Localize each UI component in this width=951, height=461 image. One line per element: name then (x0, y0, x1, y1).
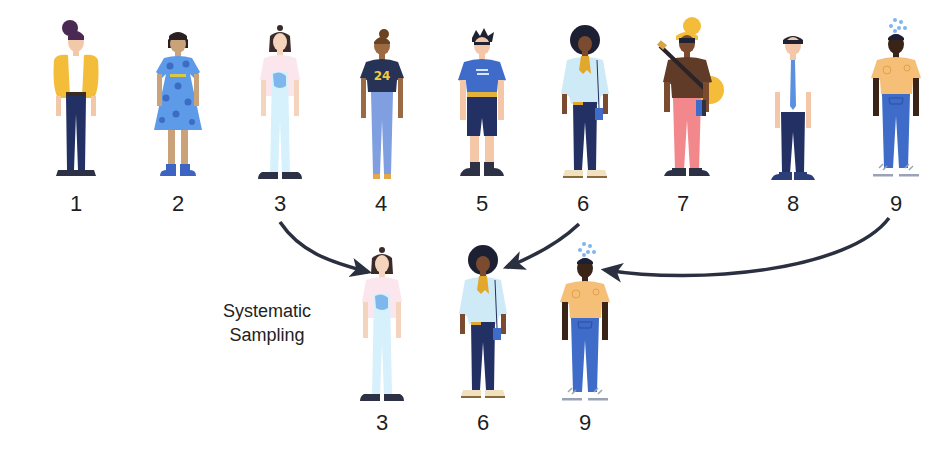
sample-person-6-figure (451, 244, 515, 402)
population-label-1: 1 (56, 192, 96, 216)
population-label-7: 7 (663, 192, 703, 216)
population-label-6: 6 (563, 192, 603, 216)
person-9-figure (865, 16, 927, 182)
caption: Systematic Sampling (212, 299, 322, 347)
population-label-5: 5 (462, 192, 502, 216)
sample-label-3: 3 (362, 411, 402, 435)
sample-person-3-figure (352, 246, 412, 404)
person-6-figure (553, 24, 617, 182)
person-4-figure: 24 (352, 28, 412, 182)
population-label-2: 2 (158, 192, 198, 216)
sample-label-6: 6 (463, 411, 503, 435)
arrow-9-to-sample (605, 218, 889, 276)
population-label-4: 4 (361, 192, 401, 216)
person-2-figure (148, 26, 208, 182)
caption-line-2: Sampling (212, 323, 322, 347)
person-7-figure (656, 16, 726, 182)
person-1-figure (46, 18, 106, 182)
population-label-9: 9 (876, 192, 916, 216)
person-5-figure (452, 28, 512, 182)
sample-person-9-figure (554, 240, 616, 406)
sample-label-9: 9 (565, 411, 605, 435)
population-label-8: 8 (773, 192, 813, 216)
caption-line-1: Systematic (212, 299, 322, 323)
systematic-sampling-diagram: 1 2 3 (0, 0, 951, 461)
person-8-figure (765, 32, 821, 182)
person-3-figure (250, 24, 310, 182)
svg-text:24: 24 (374, 69, 391, 83)
population-label-3: 3 (260, 192, 300, 216)
